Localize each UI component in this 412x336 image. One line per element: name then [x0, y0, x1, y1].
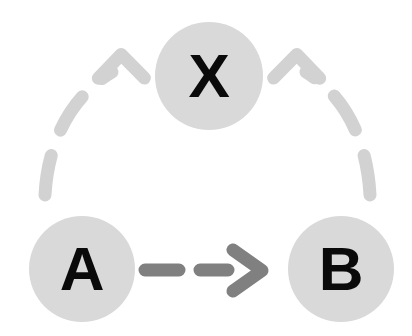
- edge-b-to-x: [272, 54, 370, 195]
- node-a-label: A: [60, 238, 104, 300]
- node-x[interactable]: X: [155, 22, 263, 130]
- edge-a-to-x-arrowhead: [98, 54, 145, 101]
- edge-a-to-b: [145, 250, 262, 291]
- edge-b-to-x-line: [306, 72, 370, 195]
- node-b-label: B: [319, 238, 363, 300]
- edge-a-to-b-arrowhead: [233, 250, 262, 291]
- node-b[interactable]: B: [288, 216, 394, 322]
- node-a[interactable]: A: [29, 216, 135, 322]
- node-x-label: X: [189, 45, 230, 107]
- diagram-canvas: X A B: [0, 0, 412, 336]
- edge-a-to-x-line: [45, 72, 112, 195]
- edge-b-to-x-arrowhead: [272, 54, 319, 101]
- edge-a-to-x: [45, 54, 146, 195]
